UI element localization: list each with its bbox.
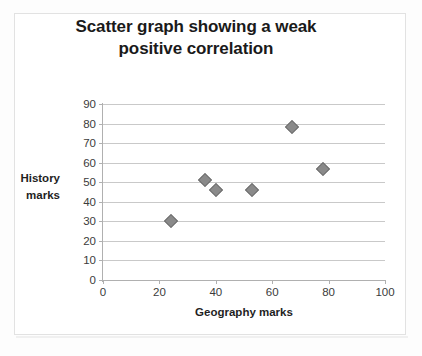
y-axis-tick-label: 30 bbox=[83, 215, 96, 227]
gridline bbox=[103, 202, 385, 203]
x-axis-tick-label: 20 bbox=[153, 286, 166, 298]
x-axis-tick-label: 60 bbox=[266, 286, 279, 298]
y-axis-line bbox=[102, 103, 103, 282]
x-axis-line bbox=[102, 280, 386, 281]
chart-page: Scatter graph showing a weak positive co… bbox=[0, 0, 422, 356]
x-axis-title: Geography marks bbox=[103, 306, 385, 318]
x-axis-tick-label: 100 bbox=[375, 286, 394, 298]
chart-title-line-2: positive correlation bbox=[20, 38, 372, 60]
y-axis-tick-label: 40 bbox=[83, 196, 96, 208]
gridline bbox=[103, 104, 385, 105]
x-axis-tick-labels: 020406080100 bbox=[103, 286, 385, 302]
data-point bbox=[197, 173, 211, 187]
gridline bbox=[103, 221, 385, 222]
data-point bbox=[164, 214, 178, 228]
gridline bbox=[103, 182, 385, 183]
y-axis-title-line-2: marks bbox=[10, 187, 60, 204]
y-axis-tick-label: 60 bbox=[83, 157, 96, 169]
y-axis-tick-labels: 0102030405060708090 bbox=[62, 104, 96, 280]
gridline bbox=[103, 124, 385, 125]
gridline bbox=[103, 163, 385, 164]
chart-frame-shadow bbox=[16, 336, 408, 338]
y-axis-tick-label: 20 bbox=[83, 235, 96, 247]
gridline bbox=[103, 241, 385, 242]
y-axis-title: History marks bbox=[10, 170, 60, 203]
x-axis-tick-label: 40 bbox=[209, 286, 222, 298]
y-axis-tick-label: 50 bbox=[83, 176, 96, 188]
data-point bbox=[245, 183, 259, 197]
gridline bbox=[103, 143, 385, 144]
x-axis-tick-label: 0 bbox=[100, 286, 106, 298]
y-axis-title-line-1: History bbox=[10, 170, 60, 187]
y-axis-tick-label: 10 bbox=[83, 254, 96, 266]
data-point bbox=[285, 120, 299, 134]
chart-title-line-1: Scatter graph showing a weak bbox=[20, 16, 372, 38]
data-point bbox=[209, 183, 223, 197]
y-axis-tick-label: 90 bbox=[83, 98, 96, 110]
x-axis-tick-label: 80 bbox=[322, 286, 335, 298]
chart-title: Scatter graph showing a weak positive co… bbox=[20, 16, 372, 61]
y-axis-tick-label: 80 bbox=[83, 118, 96, 130]
gridline bbox=[103, 260, 385, 261]
plot-area bbox=[103, 104, 385, 280]
y-axis-tick-label: 70 bbox=[83, 137, 96, 149]
y-axis-tick-label: 0 bbox=[90, 274, 96, 286]
